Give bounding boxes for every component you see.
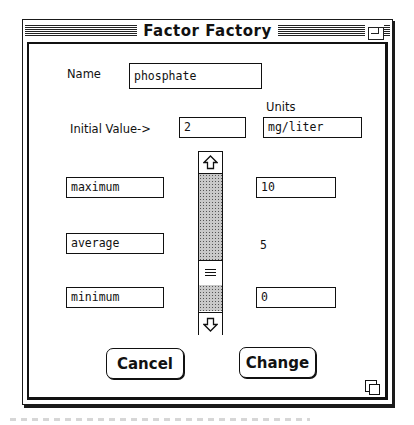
maximum-value-input[interactable]: 10 bbox=[256, 177, 336, 198]
initial-value-input[interactable]: 2 bbox=[179, 117, 246, 138]
scroll-track-upper[interactable] bbox=[199, 174, 222, 260]
cancel-button[interactable]: Cancel bbox=[106, 348, 184, 379]
average-value: 5 bbox=[260, 238, 267, 252]
resize-grow-icon[interactable] bbox=[365, 380, 381, 396]
dialog-content: Name phosphate Units Initial Value-> 2 m… bbox=[27, 42, 388, 400]
minimum-value-input[interactable]: 0 bbox=[256, 287, 336, 308]
name-label: Name bbox=[67, 67, 101, 81]
factor-factory-dialog: Factor Factory Name phosphate Units Init… bbox=[22, 19, 393, 405]
arrow-up-icon bbox=[203, 155, 218, 170]
zoom-box-icon[interactable] bbox=[368, 27, 384, 40]
scroll-track-lower[interactable] bbox=[199, 285, 222, 311]
scroll-up-button[interactable] bbox=[199, 152, 222, 174]
title-bar[interactable]: Factor Factory bbox=[23, 20, 392, 42]
window-title: Factor Factory bbox=[23, 21, 392, 41]
value-scrollbar[interactable] bbox=[198, 151, 223, 335]
scroll-down-button[interactable] bbox=[199, 312, 222, 335]
units-input[interactable]: mg/liter bbox=[263, 117, 362, 138]
maximum-label-field[interactable]: maximum bbox=[66, 177, 164, 198]
initial-value-label: Initial Value-> bbox=[70, 122, 151, 136]
minimum-label-field[interactable]: minimum bbox=[66, 287, 164, 308]
name-input[interactable]: phosphate bbox=[129, 63, 262, 89]
units-label: Units bbox=[266, 100, 295, 114]
scroll-thumb[interactable] bbox=[199, 260, 222, 286]
cropped-caption-fragment bbox=[10, 418, 310, 421]
change-button[interactable]: Change bbox=[239, 347, 316, 378]
arrow-down-icon bbox=[203, 317, 218, 332]
scroll-thumb-grip-icon bbox=[205, 269, 216, 278]
average-label-field[interactable]: average bbox=[66, 233, 164, 254]
